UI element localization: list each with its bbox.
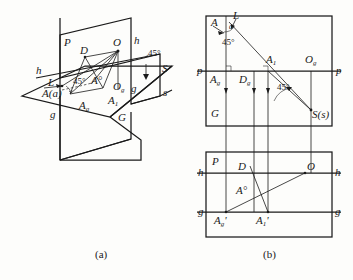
point-dot-o bbox=[117, 50, 120, 53]
b-top-label-s: S(s) bbox=[312, 108, 329, 121]
plane-p-lower-edge bbox=[60, 139, 131, 160]
b-top-label-og: Og bbox=[305, 53, 317, 67]
label-point-acirc-a: A° bbox=[90, 74, 103, 86]
figure-page: P D O h h 45° S L 45° A° A(a) Og g Ag A1… bbox=[0, 0, 353, 280]
b-bottom-label-acirc: A° bbox=[235, 184, 248, 196]
label-point-d-a: D bbox=[79, 44, 88, 56]
b-top-right-angle-ag bbox=[226, 66, 231, 71]
b-top-label-45-lower: 45° bbox=[277, 82, 290, 92]
b-top-label-plane-g: G bbox=[211, 107, 219, 119]
plane-p-outline bbox=[60, 18, 131, 78]
b-top-label-l: L bbox=[232, 9, 239, 21]
b-top-col-arrow-a1 bbox=[266, 88, 270, 94]
label-angle-45-left-a: 45° bbox=[73, 76, 86, 86]
b-top-col-arrow-dg bbox=[252, 88, 256, 94]
diagram-b-bottom-group: P D O h h A° g g Ag' A1' (b) bbox=[197, 126, 341, 261]
b-top-label-ag: Ag bbox=[209, 73, 221, 87]
b-top-label-a: A bbox=[210, 16, 218, 28]
diagram-b-top-group: A L a 45° A1 Og p p Ag Dg 45° G S(s) bbox=[196, 9, 342, 126]
b-top-right-angle-a1 bbox=[263, 66, 268, 71]
b-bottom-label-h-left: h bbox=[198, 166, 204, 178]
descriptive-geometry-figure: P D O h h 45° S L 45° A° A(a) Og g Ag A1… bbox=[0, 0, 353, 280]
b-top-label-45-upper: 45° bbox=[222, 37, 235, 47]
b-bottom-label-agprime: Ag' bbox=[213, 214, 227, 228]
label-point-a-a: A(a) bbox=[41, 87, 62, 100]
b-top-label-alpha: a bbox=[229, 22, 233, 31]
label-point-og-a: Og bbox=[113, 80, 125, 94]
b-top-label-p-left: p bbox=[196, 64, 203, 76]
plane-s-drop-arrowhead bbox=[143, 74, 149, 80]
label-axis-g-right-a: g bbox=[131, 82, 137, 94]
label-axis-h-right-a: h bbox=[134, 34, 140, 46]
b-bottom-label-g-left: g bbox=[198, 205, 204, 217]
plane-p-lower-outline bbox=[60, 96, 131, 160]
b-top-ray-a-to-s bbox=[229, 22, 311, 110]
b-top-arrow-a-head bbox=[218, 31, 224, 35]
b-top-label-a1: A1 bbox=[265, 53, 276, 67]
b-bottom-label-o: O bbox=[307, 160, 315, 172]
label-plane-p-a: P bbox=[63, 36, 71, 48]
b-top-label-p-right: p bbox=[335, 64, 342, 76]
caption-b: (b) bbox=[263, 248, 276, 261]
b-bottom-point-dot-o bbox=[304, 172, 307, 175]
label-axis-s-right-a: s bbox=[163, 86, 167, 98]
label-point-o-a: O bbox=[113, 36, 121, 48]
b-bottom-point-dot-a1prime bbox=[267, 211, 270, 214]
b-bottom-label-h-right: h bbox=[335, 166, 341, 178]
b-bottom-point-dot-agprime bbox=[225, 211, 228, 214]
caption-a: (a) bbox=[95, 248, 108, 261]
b-bottom-label-plane-p: P bbox=[211, 155, 219, 167]
label-plane-g-a: G bbox=[118, 111, 126, 123]
label-point-ag-a: Ag bbox=[78, 99, 90, 113]
label-axis-h-left-a: h bbox=[36, 64, 42, 76]
diagonal-o-ag bbox=[70, 51, 118, 94]
label-angle-45-right-a: 45° bbox=[148, 48, 161, 58]
b-top-label-dg: Dg bbox=[238, 73, 251, 87]
diagram-a-group: P D O h h 45° S L 45° A° A(a) Og g Ag A1… bbox=[22, 18, 172, 261]
label-axis-g-left-a: g bbox=[50, 108, 56, 120]
ground-base-outline bbox=[60, 117, 141, 160]
point-dot-d bbox=[84, 56, 87, 59]
label-point-s-a: S bbox=[162, 62, 168, 74]
b-bottom-label-a1prime: A1' bbox=[255, 214, 269, 228]
b-bottom-label-d: D bbox=[237, 160, 246, 172]
b-bottom-label-g-right: g bbox=[335, 205, 341, 217]
segment-a1-ag bbox=[70, 88, 103, 94]
label-point-a1-a: A1 bbox=[107, 94, 118, 108]
b-top-col-arrow-ag bbox=[224, 88, 228, 94]
